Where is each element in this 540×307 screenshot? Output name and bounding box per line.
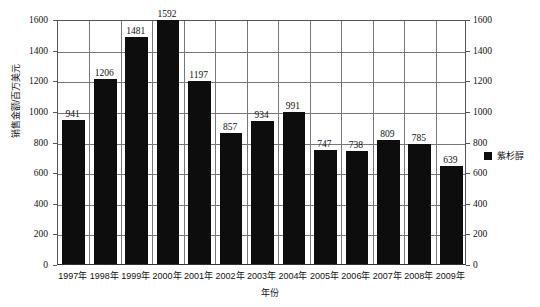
bar xyxy=(188,81,211,264)
bar-value-label: 1592 xyxy=(147,9,187,19)
bar xyxy=(408,144,431,264)
bar-value-label: 934 xyxy=(242,110,282,120)
y-axis-tick-label-right: 600 xyxy=(473,168,513,178)
y-axis-tickmark-left xyxy=(53,204,57,205)
bar xyxy=(440,166,463,264)
y-axis-tickmark-right xyxy=(466,234,470,235)
y-axis-tickmark-left xyxy=(53,81,57,82)
legend-label-paclitaxel: 紫杉醇 xyxy=(497,151,524,161)
y-axis-tickmark-left xyxy=(53,173,57,174)
bar-value-label: 941 xyxy=(53,109,93,119)
y-axis-tickmark-left xyxy=(53,234,57,235)
y-axis-tick-label-left: 1000 xyxy=(8,107,48,117)
y-axis-tick-label-left: 800 xyxy=(8,138,48,148)
bar-value-label: 639 xyxy=(430,155,470,165)
bar xyxy=(94,79,117,264)
legend-swatch-paclitaxel xyxy=(484,152,492,160)
y-axis-tick-label-right: 1200 xyxy=(473,76,513,86)
bar xyxy=(157,20,180,264)
gridline-vertical xyxy=(278,21,279,264)
y-axis-tickmark-right xyxy=(466,20,470,21)
y-axis-tickmark-right xyxy=(466,265,470,266)
bar-value-label: 1206 xyxy=(84,68,124,78)
y-axis-tickmark-right xyxy=(466,112,470,113)
y-axis-tickmark-left xyxy=(53,143,57,144)
gridline-vertical xyxy=(152,21,153,264)
bar-value-label: 785 xyxy=(399,133,439,143)
x-axis-tick-label: 2009年 xyxy=(428,271,472,282)
bar-value-label: 1481 xyxy=(116,26,156,36)
y-axis-tickmark-right xyxy=(466,173,470,174)
y-axis-tick-label-left: 400 xyxy=(8,199,48,209)
y-axis-tick-label-left: 1600 xyxy=(8,15,48,25)
y-axis-tickmark-left xyxy=(53,51,57,52)
bar xyxy=(220,133,243,264)
gridline-vertical xyxy=(215,21,216,264)
gridline-vertical xyxy=(247,21,248,264)
y-axis-tick-label-left: 1200 xyxy=(8,76,48,86)
bar xyxy=(377,140,400,264)
y-axis-tick-label-left: 200 xyxy=(8,229,48,239)
y-axis-tick-label-left: 600 xyxy=(8,168,48,178)
y-axis-tick-label-right: 0 xyxy=(473,260,513,270)
gridline-vertical xyxy=(89,21,90,264)
bar xyxy=(62,120,85,264)
gridline-vertical xyxy=(184,21,185,264)
y-axis-tick-label-right: 1000 xyxy=(473,107,513,117)
y-axis-tickmark-right xyxy=(466,81,470,82)
bar xyxy=(346,151,369,264)
bar-value-label: 738 xyxy=(336,140,376,150)
y-axis-tick-label-left: 1400 xyxy=(8,46,48,56)
bar-value-label: 1197 xyxy=(179,70,219,80)
y-axis-tick-label-right: 400 xyxy=(473,199,513,209)
legend: 紫杉醇 xyxy=(484,151,524,161)
y-axis-tickmark-right xyxy=(466,204,470,205)
y-axis-tickmark-right xyxy=(466,143,470,144)
bar xyxy=(251,121,274,264)
y-axis-tick-label-right: 800 xyxy=(473,138,513,148)
bar xyxy=(283,112,306,264)
bar-chart-figure: 销售金额/百万美元 年份 紫杉醇 00200200400400600600800… xyxy=(0,0,540,307)
y-axis-tickmark-left xyxy=(53,20,57,21)
bar xyxy=(125,37,148,264)
y-axis-tick-label-right: 200 xyxy=(473,229,513,239)
y-axis-tickmark-right xyxy=(466,51,470,52)
x-axis-title: 年份 xyxy=(0,288,540,298)
gridline-vertical xyxy=(121,21,122,264)
bar-value-label: 857 xyxy=(210,122,250,132)
y-axis-tickmark-left xyxy=(53,265,57,266)
y-axis-tick-label-right: 1600 xyxy=(473,15,513,25)
bar xyxy=(314,150,337,264)
y-axis-tick-label-right: 1400 xyxy=(473,46,513,56)
bar-value-label: 991 xyxy=(273,101,313,111)
y-axis-tick-label-left: 0 xyxy=(8,260,48,270)
